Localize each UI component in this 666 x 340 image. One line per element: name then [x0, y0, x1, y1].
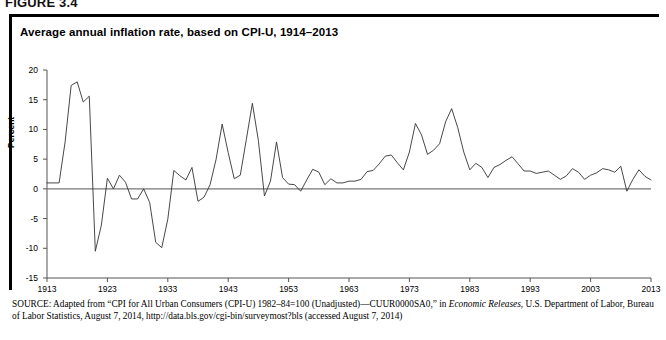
x-tick-label: 1913: [27, 284, 67, 294]
source-text-a: Adapted from “CPI for All Urban Consumer…: [51, 299, 448, 309]
figure-frame: [9, 14, 659, 290]
x-tick-label: 1933: [148, 284, 188, 294]
source-label: SOURCE:: [12, 299, 51, 309]
y-tick-label: 20: [12, 65, 38, 75]
y-tick-label: 10: [12, 124, 38, 134]
x-tick-label: 2013: [631, 284, 666, 294]
source-publication: Economic Releases: [449, 299, 521, 309]
x-tick-label: 1923: [87, 284, 127, 294]
x-tick-label: 1963: [329, 284, 369, 294]
x-tick-label: 1953: [269, 284, 309, 294]
x-tick-label: 1973: [389, 284, 429, 294]
figure-number-label: FIGURE 3.4: [5, 0, 78, 8]
y-tick-label: -5: [12, 214, 38, 224]
x-tick-label: 1943: [208, 284, 248, 294]
y-tick-label: 5: [12, 154, 38, 164]
source-note: SOURCE: Adapted from “CPI for All Urban …: [12, 298, 656, 322]
figure-container: FIGURE 3.4 Average annual inflation rate…: [0, 0, 666, 340]
x-tick-label: 2003: [571, 284, 611, 294]
y-tick-label: 15: [12, 95, 38, 105]
x-tick-label: 1983: [450, 284, 490, 294]
chart-title: Average annual inflation rate, based on …: [20, 26, 338, 38]
x-tick-label: 1993: [510, 284, 550, 294]
y-tick-label: 0: [12, 184, 38, 194]
y-tick-label: -15: [12, 273, 38, 283]
y-tick-label: -10: [12, 243, 38, 253]
